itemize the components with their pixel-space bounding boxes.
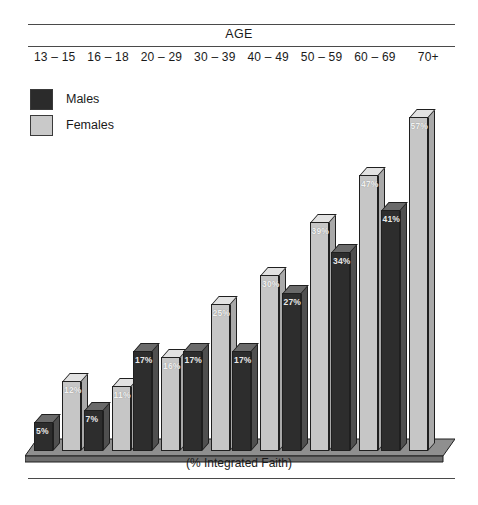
bar-males-2: 17% [133,351,152,451]
bar-value-label: 17% [185,355,203,365]
bar-value-label: 16% [163,361,181,371]
bar-front-face [282,293,301,451]
bar-front-face [232,351,251,451]
bar-males-7: 41% [381,210,400,451]
bar-males-5: 27% [282,293,301,451]
bar-males-0: 5% [34,422,53,451]
bar-front-face [260,275,279,451]
bar-side-face [428,109,435,451]
bar-front-face [133,351,152,451]
bar-females-1: 11% [112,386,131,451]
bar-males-1: 7% [84,410,103,451]
bar-females-5: 39% [310,222,329,451]
bar-value-label: 27% [284,297,302,307]
bar-males-3: 17% [183,351,202,451]
bar-side-face [301,285,308,451]
bar-males-6: 34% [331,252,350,451]
chart-caption: (% Integrated Faith) [0,456,478,470]
bar-females-4: 30% [260,275,279,451]
bar-value-label: 17% [234,355,252,365]
bar-value-label: 30% [262,279,280,289]
bar-value-label: 41% [383,214,401,224]
bar-front-face [381,210,400,451]
bar-males-4: 17% [232,351,251,451]
bar-females-0: 12% [62,381,81,451]
bar-side-face [251,343,258,451]
bar-front-face [331,252,350,451]
bar-females-7: 57% [409,117,428,451]
bar-value-label: 34% [333,256,351,266]
bar-side-face [152,343,159,451]
bar-value-label: 17% [135,355,153,365]
chart-page: AGE 13 – 1516 – 1820 – 2930 – 3940 – 495… [0,0,478,505]
bar-value-label: 25% [213,308,231,318]
bar-front-face [359,175,378,451]
bar-value-label: 39% [312,226,330,236]
bar-side-face [350,244,357,451]
bar-value-label: 5% [36,426,49,436]
bar-value-label: 7% [86,414,99,424]
bar-front-face [183,351,202,451]
bar-value-label: 11% [114,390,131,400]
bar-females-6: 47% [359,175,378,451]
bar-females-2: 16% [161,357,180,451]
bar-side-face [202,343,209,451]
bar-front-face [211,304,230,451]
bar-front-face [310,222,329,451]
bar-front-face [409,117,428,451]
bar-value-label: 57% [411,121,429,131]
bar-side-face [400,202,407,451]
bar-females-3: 25% [211,304,230,451]
footer-rule [28,478,455,479]
bar-value-label: 12% [64,385,82,395]
bar-value-label: 47% [361,179,379,189]
bar-chart-plot: 5%12%7%11%17%16%17%25%17%30%27%39%34%47%… [0,0,478,505]
bar-front-face [161,357,180,451]
